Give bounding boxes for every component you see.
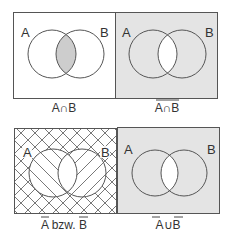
- set-label-b: B: [101, 145, 110, 160]
- set-label-b: B: [205, 25, 214, 40]
- set-label-a: A: [122, 25, 131, 40]
- panel-union-of-complements: A B A∪B: [118, 128, 220, 233]
- caption: A∩B: [155, 101, 180, 115]
- panel-intersection: A B A∩B: [14, 13, 116, 116]
- caption: A∪B: [155, 218, 180, 232]
- panel-complement-of-intersection: A B A∩B: [116, 13, 218, 116]
- set-label-a: A: [124, 142, 133, 157]
- caption: A∩B: [52, 101, 77, 115]
- caption: A bzw. B: [41, 218, 87, 232]
- set-label-a: A: [23, 145, 32, 160]
- set-label-a: A: [21, 25, 30, 40]
- set-label-b: B: [207, 142, 216, 157]
- venn-diagram-figure: A B A∩B A B A∩B A B A bzw.: [0, 0, 230, 242]
- panel-complements: A B A bzw. B: [14, 128, 117, 232]
- set-label-b: B: [100, 25, 109, 40]
